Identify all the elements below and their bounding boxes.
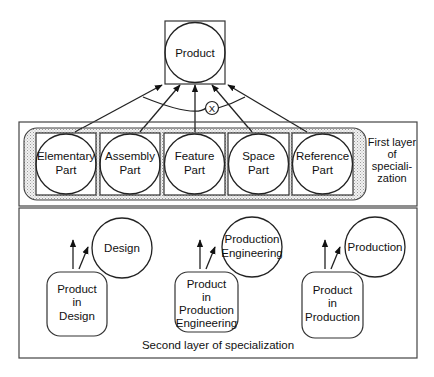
svg-text:Production: Production: [348, 241, 403, 253]
svg-text:Reference: Reference: [296, 150, 349, 162]
group-production: Production Product in Production: [302, 217, 405, 338]
xor-symbol: X: [209, 103, 216, 114]
part-feature: Feature Part: [164, 133, 225, 195]
svg-text:of: of: [387, 148, 397, 160]
svg-text:Design: Design: [59, 310, 95, 322]
svg-text:Space: Space: [242, 150, 275, 162]
svg-text:Product: Product: [313, 284, 353, 296]
svg-text:Part: Part: [119, 164, 141, 176]
svg-text:Feature: Feature: [175, 150, 215, 162]
part-elementary: Elementary Part: [36, 133, 96, 195]
svg-text:Product: Product: [57, 283, 97, 295]
product-label: Product: [175, 47, 215, 59]
part-reference: Reference Part: [292, 133, 353, 195]
svg-text:Part: Part: [55, 164, 77, 176]
svg-text:Part: Part: [184, 164, 206, 176]
svg-text:in: in: [328, 297, 337, 309]
svg-text:zation: zation: [377, 172, 406, 184]
group-design: Design Product in Design: [47, 218, 152, 336]
specialization-diagram: Product X Elementary Part: [0, 0, 434, 377]
first-layer-panel: Elementary Part Assembly Part Feature Pa…: [19, 122, 417, 206]
svg-text:Engineering: Engineering: [176, 317, 237, 329]
svg-text:Part: Part: [248, 164, 270, 176]
svg-text:in: in: [202, 291, 211, 303]
svg-text:Assembly: Assembly: [105, 150, 155, 162]
svg-text:Design: Design: [104, 242, 140, 254]
svg-text:Part: Part: [312, 164, 334, 176]
svg-text:Production: Production: [305, 311, 360, 323]
part-space: Space Part: [228, 133, 289, 195]
second-layer-panel: Design Product in Design Production Engi…: [19, 208, 417, 358]
svg-text:Product: Product: [187, 278, 227, 290]
specialization-arrows: [75, 85, 307, 132]
svg-text:in: in: [73, 296, 82, 308]
svg-text:speciali-: speciali-: [372, 160, 413, 172]
second-layer-caption: Second layer of specialization: [142, 339, 294, 351]
svg-text:Engineering: Engineering: [221, 247, 282, 259]
svg-text:Elementary: Elementary: [37, 150, 95, 162]
group-production-engineering: Production Engineering Product in Produc…: [175, 217, 283, 332]
product-node: Product: [165, 21, 225, 84]
svg-text:Production: Production: [225, 233, 280, 245]
xor-operator: X: [206, 102, 219, 115]
svg-text:First layer: First layer: [368, 136, 417, 148]
first-layer-caption: First layer of speciali- zation: [368, 136, 417, 184]
svg-text:Production: Production: [179, 304, 234, 316]
part-assembly: Assembly Part: [100, 133, 160, 195]
